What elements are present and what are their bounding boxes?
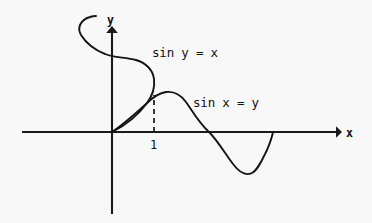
label-x-axis: x (346, 126, 353, 140)
x-axis (22, 126, 342, 138)
plot-canvas (0, 0, 372, 223)
label-tick-one: 1 (150, 138, 157, 152)
label-curve-sin-y-equals-x: sin y = x (152, 45, 218, 60)
x-axis-arrow-icon (336, 126, 342, 138)
label-curve-sin-x-equals-y: sin x = y (193, 95, 259, 110)
curve-sin-y-equals-x (79, 16, 154, 132)
y-axis-arrow-icon (106, 26, 118, 33)
label-y-axis: y (107, 13, 114, 27)
math-figure: sin y = x sin x = y y x 1 (0, 0, 372, 223)
